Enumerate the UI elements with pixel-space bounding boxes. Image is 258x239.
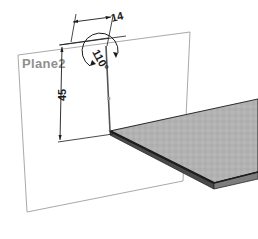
dim-line-14[interactable] [73,17,111,22]
dimension-value-45[interactable]: 45 [56,89,68,101]
plane-label[interactable]: Plane2 [22,56,66,71]
cad-svg-root: Plane2 14 [0,0,258,239]
ext-line-bottom-45 [58,134,113,142]
dimension-110-angle[interactable]: 110° [60,33,126,72]
dimension-value-110[interactable]: 110° [90,47,111,72]
angle-arrow-end [113,52,118,58]
sketch-midpoint-handle[interactable] [107,97,110,100]
ext-line-left-14 [71,14,76,42]
dimension-14[interactable]: 14 [71,9,125,46]
dimension-value-14[interactable]: 14 [110,9,126,24]
extruded-plate[interactable] [110,99,258,189]
cad-drawing-canvas: Plane2 14 [0,0,258,239]
